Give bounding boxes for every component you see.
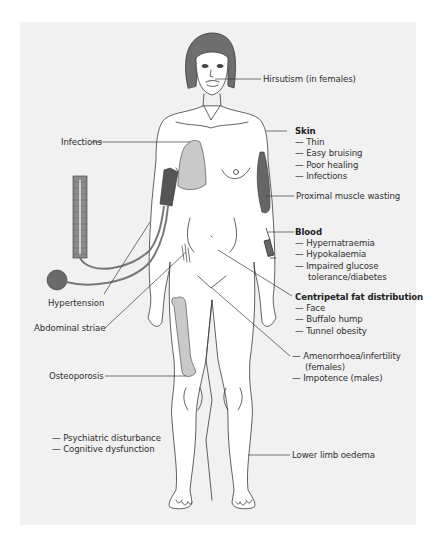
label-infections: Infections bbox=[61, 137, 102, 148]
label-hirsutism: Hirsutism (in females) bbox=[263, 74, 356, 85]
blood-title: Blood bbox=[295, 227, 387, 238]
label-blood-group: Blood Hypernatraemia Hypokalaemia Impair… bbox=[295, 227, 387, 283]
centripetal-item: Buffalo hump bbox=[295, 314, 423, 325]
centripetal-item: Tunnel obesity bbox=[295, 326, 423, 337]
blood-item: Hypokalaemia bbox=[295, 249, 387, 260]
psych-item: Cognitive dysfunction bbox=[52, 444, 161, 455]
label-hypertension: Hypertension bbox=[48, 298, 104, 309]
bp-bulb bbox=[47, 270, 67, 290]
manometer-icon bbox=[73, 176, 87, 258]
skin-item: Poor healing bbox=[295, 160, 362, 171]
face-outline bbox=[196, 52, 228, 95]
reproductive-item: Amenorrhoea/infertility bbox=[292, 351, 401, 362]
centripetal-item: Face bbox=[295, 303, 423, 314]
reproductive-item-continuation: (females) bbox=[292, 362, 401, 373]
body-outline bbox=[148, 106, 276, 509]
label-abdominal-striae: Abdominal striae bbox=[34, 323, 105, 334]
skin-item: Infections bbox=[295, 171, 362, 182]
label-osteoporosis: Osteoporosis bbox=[49, 371, 104, 382]
label-skin-group: Skin Thin Easy bruising Poor healing Inf… bbox=[295, 126, 362, 182]
reproductive-item: Impotence (males) bbox=[292, 373, 401, 384]
label-psych-group: Psychiatric disturbance Cognitive dysfun… bbox=[52, 433, 161, 455]
label-lower-limb-oedema: Lower limb oedema bbox=[292, 450, 375, 461]
blood-item: Impaired glucose bbox=[295, 261, 387, 272]
label-centripetal-group: Centripetal fat distribution Face Buffal… bbox=[295, 292, 423, 337]
psych-item: Psychiatric disturbance bbox=[52, 433, 161, 444]
centripetal-title: Centripetal fat distribution bbox=[295, 292, 423, 303]
blood-item-continuation: tolerance/diabetes bbox=[295, 272, 387, 283]
blood-item: Hypernatraemia bbox=[295, 238, 387, 249]
skin-title: Skin bbox=[295, 126, 362, 137]
label-proximal-muscle: Proximal muscle wasting bbox=[296, 191, 400, 202]
label-reproductive-group: Amenorrhoea/infertility (females) Impote… bbox=[292, 351, 401, 385]
skin-item: Thin bbox=[295, 137, 362, 148]
skin-item: Easy bruising bbox=[295, 148, 362, 159]
